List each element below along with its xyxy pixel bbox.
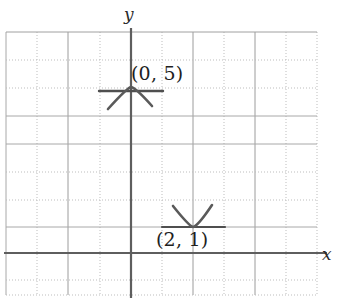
graph-canvas bbox=[0, 0, 339, 303]
graph-figure: y x (0, 5) (2, 1) bbox=[0, 0, 339, 303]
point-label-0-5: (0, 5) bbox=[131, 64, 183, 83]
point-label-2-1: (2, 1) bbox=[156, 230, 208, 249]
axis-label-x: x bbox=[322, 246, 332, 263]
axis-label-y: y bbox=[124, 6, 134, 23]
